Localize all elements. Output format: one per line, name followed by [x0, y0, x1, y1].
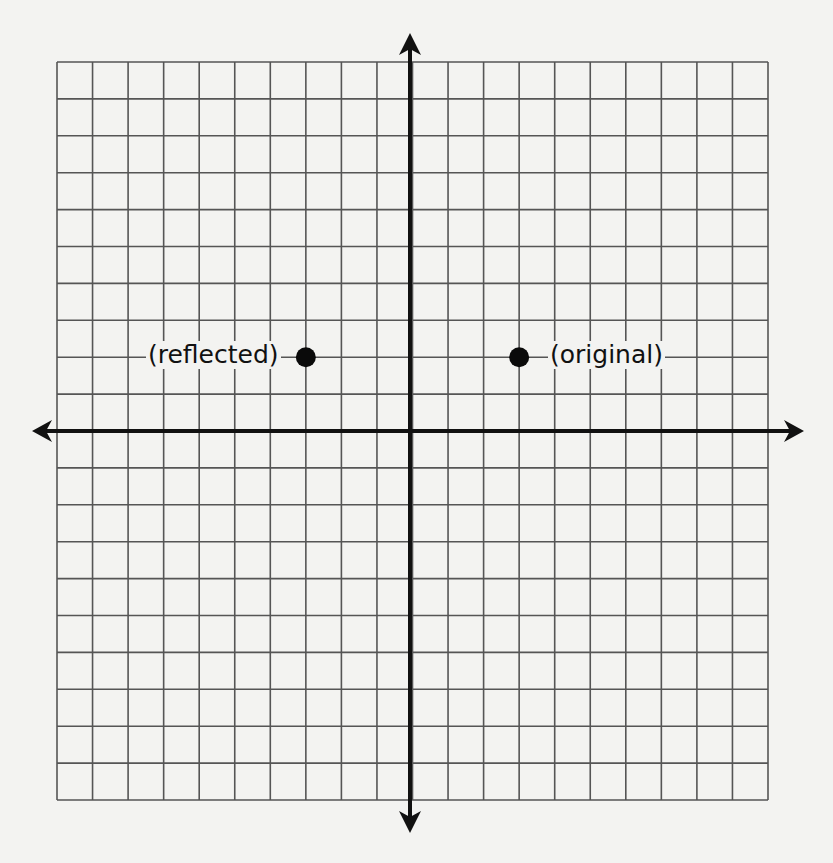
point-reflected — [296, 347, 316, 367]
point-label-original: (original) — [548, 341, 665, 369]
point-original — [509, 347, 529, 367]
point-label-reflected: (reflected) — [146, 341, 281, 369]
x-axis — [32, 420, 804, 442]
coordinate-plane — [0, 0, 833, 863]
